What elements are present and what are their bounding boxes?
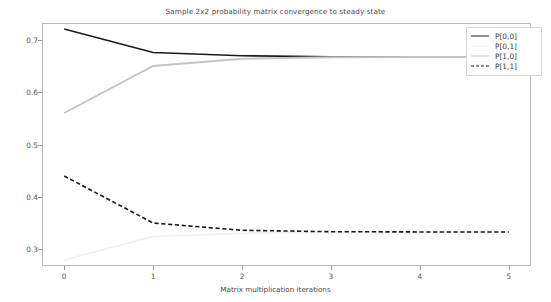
legend-label: P[1,0] <box>490 52 517 61</box>
x-axis-label: Matrix multiplication iterations <box>0 285 551 294</box>
legend-line-swatch-icon <box>470 61 490 71</box>
x-tick-label: 2 <box>227 272 257 281</box>
x-tick-label: 4 <box>405 272 435 281</box>
x-tick-mark <box>509 266 510 270</box>
y-tick-label: 0.7 <box>8 35 38 44</box>
legend-entry: P[1,1] <box>470 61 537 71</box>
legend-label: P[0,0] <box>490 32 517 41</box>
legend-label: P[0,1] <box>490 42 517 51</box>
x-tick-label: 0 <box>49 272 79 281</box>
chart-title: Sample 2x2 probability matrix convergenc… <box>0 7 551 16</box>
x-tick-mark <box>242 266 243 270</box>
y-tick-label: 0.5 <box>8 140 38 149</box>
y-axis-tick-labels: 0.30.40.50.60.7 <box>4 0 38 302</box>
legend-entries: P[0,0]P[0,1]P[1,0]P[1,1] <box>470 31 537 71</box>
x-tick-label: 3 <box>316 272 346 281</box>
chart-figure: Sample 2x2 probability matrix convergenc… <box>0 0 551 302</box>
legend-line-swatch-icon <box>470 31 490 41</box>
x-tick-mark <box>64 266 65 270</box>
x-tick-mark <box>420 266 421 270</box>
x-tick-mark <box>331 266 332 270</box>
legend-entry: P[0,1] <box>470 41 537 51</box>
y-tick-label: 0.3 <box>8 245 38 254</box>
y-tick-label: 0.4 <box>8 192 38 201</box>
plot-area-frame <box>42 23 531 266</box>
legend-line-swatch-icon <box>470 51 490 61</box>
legend-entry: P[1,0] <box>470 51 537 61</box>
legend-line-swatch-icon <box>470 41 490 51</box>
x-tick-mark <box>153 266 154 270</box>
x-tick-label: 1 <box>138 272 168 281</box>
chart-legend: P[0,0]P[0,1]P[1,0]P[1,1] <box>466 27 542 76</box>
legend-label: P[1,1] <box>490 62 517 71</box>
y-tick-label: 0.6 <box>8 88 38 97</box>
x-tick-label: 5 <box>494 272 524 281</box>
legend-entry: P[0,0] <box>470 31 537 41</box>
